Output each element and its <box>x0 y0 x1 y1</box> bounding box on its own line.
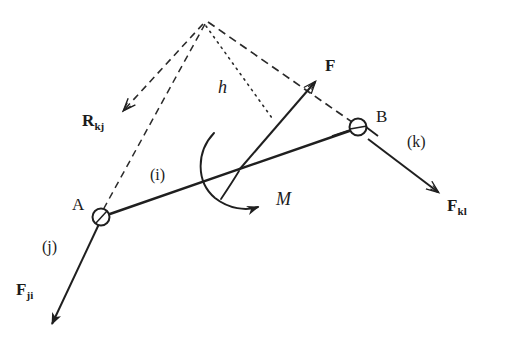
dimension-label-h: h <box>218 78 227 96</box>
link-body-ab <box>107 128 358 215</box>
moment-arc-M <box>201 133 258 209</box>
vector-label-F-symbol: F <box>325 56 336 75</box>
vector-label-F-ji-symbol: F <box>16 280 27 299</box>
link-label-i: (i) <box>150 167 165 183</box>
vector-label-F-kl: Fkl <box>447 197 467 214</box>
vector-line-R-kj <box>124 24 203 110</box>
vector-label-F: F <box>325 57 336 74</box>
free-body-diagram: A B (i) (j) (k) F Rkj Fji Fkl M h <box>0 0 517 352</box>
vector-label-R-kj-subscript: kj <box>94 120 104 132</box>
vector-label-F-kl-symbol: F <box>447 196 458 215</box>
vector-label-F-kl-subscript: kl <box>458 205 467 217</box>
link-label-j: (j) <box>42 239 57 255</box>
joint-label-a: A <box>72 196 84 213</box>
link-label-k: (k) <box>407 134 426 150</box>
vector-line-F-ji <box>52 224 99 324</box>
vector-label-F-ji: Fji <box>16 281 33 298</box>
joint-label-b: B <box>376 108 387 125</box>
vector-label-R-kj-symbol: R <box>82 111 94 130</box>
diagram-canvas <box>0 0 517 352</box>
moment-label-M: M <box>276 190 291 208</box>
vector-label-F-ji-subscript: ji <box>27 289 34 301</box>
vector-line-F-kl <box>368 139 438 192</box>
dimension-line-h <box>206 26 272 118</box>
vector-label-R-kj: Rkj <box>82 112 104 129</box>
joint-b-right-stub <box>366 127 378 136</box>
